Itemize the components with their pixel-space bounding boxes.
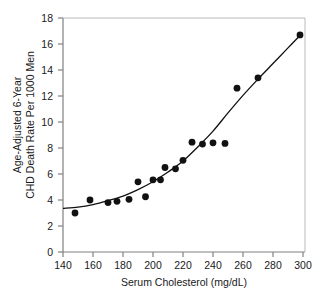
data-point xyxy=(150,176,157,183)
y-axis-ticks xyxy=(58,18,63,252)
x-tick-label-140: 140 xyxy=(48,260,78,270)
data-points xyxy=(72,32,304,217)
data-point xyxy=(172,165,179,172)
data-point xyxy=(135,178,142,185)
data-point xyxy=(162,164,169,171)
data-point xyxy=(255,74,262,81)
y-tick-label-10: 10 xyxy=(27,117,53,127)
chart-figure: Age-Adjusted 6-Year CHD Death Rate Per 1… xyxy=(0,0,317,299)
data-point xyxy=(234,85,241,92)
data-point xyxy=(297,32,304,39)
x-tick-label-300: 300 xyxy=(288,260,317,270)
data-point xyxy=(157,176,164,183)
y-tick-label-0: 0 xyxy=(27,247,53,257)
x-tick-label-220: 220 xyxy=(168,260,198,270)
y-tick-label-8: 8 xyxy=(27,143,53,153)
x-tick-label-280: 280 xyxy=(258,260,288,270)
y-tick-label-6: 6 xyxy=(27,169,53,179)
fitted-curve xyxy=(63,36,300,209)
y-tick-label-2: 2 xyxy=(27,221,53,231)
x-tick-label-160: 160 xyxy=(78,260,108,270)
data-point xyxy=(105,199,112,206)
y-tick-label-16: 16 xyxy=(27,39,53,49)
data-point xyxy=(72,210,79,217)
x-tick-label-260: 260 xyxy=(228,260,258,270)
x-tick-label-180: 180 xyxy=(108,260,138,270)
x-axis-ticks xyxy=(63,252,303,257)
plot-axes xyxy=(63,18,305,252)
data-point xyxy=(180,157,187,164)
data-point xyxy=(189,139,196,146)
data-point xyxy=(222,140,229,147)
data-point xyxy=(114,198,121,205)
data-point xyxy=(87,197,94,204)
data-point xyxy=(199,141,206,148)
data-point xyxy=(142,193,149,200)
x-tick-label-200: 200 xyxy=(138,260,168,270)
data-point xyxy=(126,196,133,203)
y-tick-label-14: 14 xyxy=(27,65,53,75)
data-point xyxy=(210,139,217,146)
x-tick-label-240: 240 xyxy=(198,260,228,270)
y-tick-label-4: 4 xyxy=(27,195,53,205)
y-tick-label-12: 12 xyxy=(27,91,53,101)
y-tick-label-18: 18 xyxy=(27,13,53,23)
